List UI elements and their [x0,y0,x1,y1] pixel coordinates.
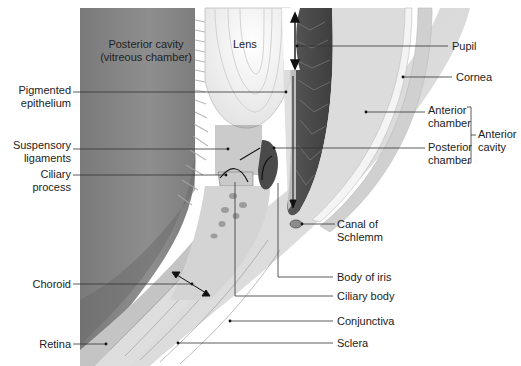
posterior-cavity-line2: (vitreous chamber) [96,51,196,64]
label-line1: Posterior [428,141,472,154]
label-pupil: Pupil [452,40,476,53]
label-line2: Schlemm [337,231,383,244]
label-suspensory-ligaments: Suspensory ligaments [13,139,71,165]
label-line1: Anterior [478,128,517,141]
label-line1: Canal of [337,218,383,231]
posterior-cavity-line1: Posterior cavity [96,38,196,51]
label-line2: process [32,181,71,194]
label-retina: Retina [39,338,71,351]
label-cornea: Cornea [456,71,492,84]
label-anterior-cavity: Anterior cavity [478,128,517,154]
label-line2: ligaments [13,152,71,165]
canal-of-schlemm-shape [290,220,302,228]
label-posterior-chamber: Posterior chamber [428,141,472,167]
label-pigmented-epithelium: Pigmented epithelium [18,84,71,110]
lens-label: Lens [233,38,257,51]
label-line1: Anterior [428,104,471,117]
label-line1: Ciliary [32,168,71,181]
label-sclera: Sclera [337,337,368,350]
label-line2: epithelium [18,97,71,110]
label-choroid: Choroid [32,278,71,291]
lens-shape [205,8,290,128]
label-line2: chamber [428,117,471,130]
label-line2: chamber [428,154,472,167]
posterior-cavity-label: Posterior cavity (vitreous chamber) [96,38,196,64]
label-conjunctiva: Conjunctiva [337,315,394,328]
eye-anatomy-illustration [0,0,521,366]
label-ciliary-process: Ciliary process [32,168,71,194]
label-line2: cavity [478,141,517,154]
label-anterior-chamber: Anterior chamber [428,104,471,130]
label-line1: Suspensory [13,139,71,152]
label-body-of-iris: Body of iris [337,271,391,284]
label-canal-of-schlemm: Canal of Schlemm [337,218,383,244]
label-ciliary-body: Ciliary body [337,290,394,303]
label-line1: Pigmented [18,84,71,97]
